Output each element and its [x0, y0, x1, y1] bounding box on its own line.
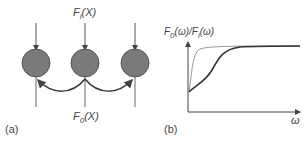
panel-a-label: (a) [5, 123, 18, 135]
nodes [22, 49, 149, 77]
panel-b-label: (b) [164, 123, 177, 135]
thin-response-curve [189, 46, 300, 92]
node-center [71, 49, 99, 77]
output-lines [36, 77, 135, 107]
input-label: Fi(X) [73, 6, 96, 21]
y-axis-label: F0(ω)/Fi(ω) [164, 26, 214, 40]
x-axis-label: ω [291, 114, 300, 126]
plot-axes [188, 42, 300, 112]
input-arrows [36, 23, 135, 50]
output-label: F0(X) [73, 110, 99, 125]
node-left [22, 49, 50, 77]
thick-response-curve [189, 46, 300, 92]
figure-canvas [0, 0, 308, 143]
node-right [121, 49, 149, 77]
